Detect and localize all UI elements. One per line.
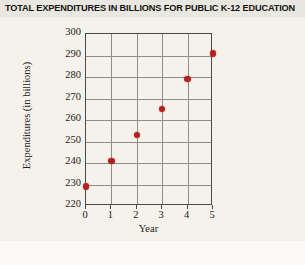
- x-axis-tick-mark: [85, 205, 86, 209]
- data-point: [184, 76, 190, 82]
- y-axis-title: Expenditures (in billions): [21, 51, 32, 181]
- title-band: TOTAL EXPENDITURES IN BILLIONS FOR PUBLI…: [0, 0, 305, 17]
- y-axis-tick-label: 290: [65, 48, 81, 59]
- gridline-horizontal: [86, 120, 211, 121]
- x-axis-title: Year: [85, 223, 212, 234]
- x-axis-tick-mark: [136, 205, 137, 209]
- y-axis-tick-labels: 220230240250260270280290300: [52, 33, 81, 205]
- data-point: [108, 158, 114, 164]
- x-axis-tick-mark: [212, 205, 213, 209]
- y-axis-tick-label: 230: [65, 177, 81, 188]
- chart-title: TOTAL EXPENDITURES IN BILLIONS FOR PUBLI…: [5, 3, 295, 13]
- gridline-vertical: [188, 34, 189, 204]
- gridline-vertical: [137, 34, 138, 204]
- gridline-horizontal: [86, 185, 211, 186]
- y-axis-tick-label: 240: [65, 155, 81, 166]
- gridline-horizontal: [86, 77, 211, 78]
- gridline-vertical: [111, 34, 112, 204]
- y-axis-tick-label: 220: [65, 198, 81, 209]
- data-point: [83, 183, 89, 189]
- x-axis-tick-label: 0: [77, 209, 93, 220]
- x-axis-tick-mark: [187, 205, 188, 209]
- x-axis-tick-labels: 012345: [85, 209, 212, 223]
- data-point: [134, 132, 140, 138]
- gridline-vertical: [162, 34, 163, 204]
- page-footer-area: [0, 241, 305, 265]
- gridline-horizontal: [86, 99, 211, 100]
- data-point: [159, 106, 165, 112]
- x-axis-tick-label: 4: [179, 209, 195, 220]
- plot-area: [85, 33, 212, 205]
- x-axis-tick-label: 2: [128, 209, 144, 220]
- y-axis-tick-label: 280: [65, 69, 81, 80]
- y-axis-tick-label: 300: [65, 26, 81, 37]
- x-axis-tick-label: 3: [153, 209, 169, 220]
- y-axis-tick-label: 250: [65, 134, 81, 145]
- x-axis-tick-label: 5: [204, 209, 220, 220]
- x-axis-tick-label: 1: [102, 209, 118, 220]
- x-axis-tick-mark: [110, 205, 111, 209]
- gridline-horizontal: [86, 163, 211, 164]
- y-axis-tick-label: 260: [65, 112, 81, 123]
- x-axis-tick-mark: [161, 205, 162, 209]
- data-point: [210, 50, 216, 56]
- gridline-horizontal: [86, 142, 211, 143]
- y-axis-tick-label: 270: [65, 91, 81, 102]
- gridline-horizontal: [86, 56, 211, 57]
